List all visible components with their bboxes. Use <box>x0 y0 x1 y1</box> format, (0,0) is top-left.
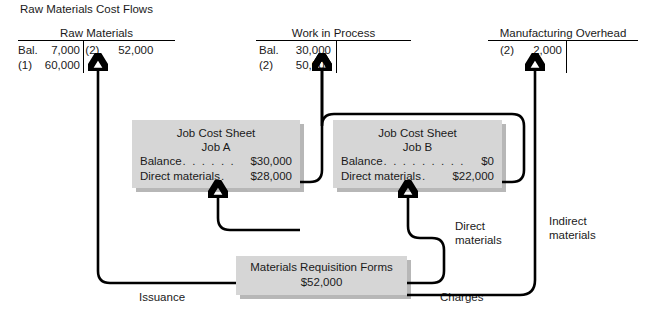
t-account-divider-raw-materials <box>83 41 84 73</box>
t-account-credit-side-work-in-process <box>339 41 409 73</box>
t-account-entry: Bal. 30,000 <box>259 43 339 58</box>
job-b-row-balance: Balance . . . . . . . . . . . . $0 <box>341 154 494 169</box>
arrow-direct-materials-job-b <box>407 195 444 283</box>
entry-amount: 50,000 <box>281 58 331 73</box>
t-account-entry: (2) 50,000 <box>259 58 339 73</box>
t-account-entry: (1) 60,000 <box>18 58 81 73</box>
entry-amount: 2,000 <box>522 43 562 58</box>
direct-materials-line-1: Direct <box>455 219 502 233</box>
arrow-direct-materials-job-a <box>218 195 300 230</box>
materials-requisition-forms-box: Materials Requisition Forms $52,000 <box>236 256 407 295</box>
connector-label-indirect-materials: Indirect materials <box>549 214 596 242</box>
job-a-row-balance: Balance . . . . . . . . $30,000 <box>140 154 292 169</box>
row-leader: . . . . . . . . . . . . <box>383 154 468 169</box>
entry-ref: Bal. <box>18 43 43 58</box>
t-account-debit-side-raw-materials: Bal. 7,000 (1) 60,000 <box>18 41 81 73</box>
t-account-title-work-in-process: Work in Process <box>256 27 411 40</box>
row-leader: . <box>421 169 441 184</box>
row-amount: $0 <box>468 154 494 169</box>
t-account-divider-manufacturing-overhead <box>566 41 567 73</box>
t-account-entry: Bal. 7,000 <box>18 43 81 58</box>
t-account-entry: (2) 2,000 <box>500 43 572 58</box>
entry-amount: 60,000 <box>39 58 80 73</box>
connector-label-issuance: Issuance <box>139 290 185 304</box>
t-account-raw-materials: Raw Materials Bal. 7,000 (1) 60,000 (2) … <box>18 27 175 73</box>
connector-label-direct-materials: Direct materials <box>455 219 502 247</box>
row-amount: $22,000 <box>441 169 494 184</box>
row-label: Balance <box>140 154 182 169</box>
job-b-job-label: Job B <box>341 140 494 154</box>
t-account-credit-side-raw-materials: (2) 52,000 <box>81 41 175 73</box>
row-amount: $30,000 <box>239 154 292 169</box>
entry-ref: Bal. <box>259 43 284 58</box>
entry-amount: 30,000 <box>284 43 331 58</box>
job-cost-sheet-job-a: Job Cost Sheet Job A Balance . . . . . .… <box>132 120 300 188</box>
indirect-materials-line-1: Indirect <box>549 214 596 228</box>
job-b-heading: Job Cost Sheet <box>341 126 494 140</box>
materials-requisition-title: Materials Requisition Forms <box>242 260 401 275</box>
t-account-debit-side-manufacturing-overhead: (2) 2,000 <box>488 41 572 73</box>
entry-ref: (2) <box>85 43 105 58</box>
job-b-row-direct-materials: Direct materials . $22,000 <box>341 169 494 184</box>
job-a-job-label: Job A <box>140 140 292 154</box>
indirect-materials-line-2: materials <box>549 228 596 242</box>
connector-label-charges: Charges <box>440 290 483 304</box>
entry-amount: 52,000 <box>105 43 153 58</box>
job-a-heading: Job Cost Sheet <box>140 126 292 140</box>
t-account-manufacturing-overhead: Manufacturing Overhead (2) 2,000 <box>488 27 638 73</box>
row-label: Direct materials <box>341 169 421 184</box>
entry-ref: (2) <box>500 43 522 58</box>
t-account-debit-side-work-in-process: Bal. 30,000 (2) 50,000 <box>256 41 339 73</box>
row-label: Balance <box>341 154 383 169</box>
t-account-title-raw-materials: Raw Materials <box>18 27 175 40</box>
row-label: Direct materials <box>140 169 220 184</box>
t-account-divider-work-in-process <box>336 41 337 73</box>
materials-requisition-amount: $52,000 <box>242 275 401 290</box>
row-leader: . . . . . . . . <box>182 154 239 169</box>
figure-title: Raw Materials Cost Flows <box>20 3 153 15</box>
t-account-title-manufacturing-overhead: Manufacturing Overhead <box>488 27 638 40</box>
row-amount: $28,000 <box>239 169 292 184</box>
job-a-row-direct-materials: Direct materials . $28,000 <box>140 169 292 184</box>
entry-amount: 7,000 <box>43 43 80 58</box>
job-cost-sheet-job-b: Job Cost Sheet Job B Balance . . . . . .… <box>333 120 502 188</box>
raw-materials-cost-flows-diagram: Raw Materials Cost Flows Raw Materials B… <box>0 0 647 317</box>
t-account-entry: (2) 52,000 <box>85 43 175 58</box>
entry-ref: (2) <box>259 58 281 73</box>
arrow-job-a-to-work-in-process <box>300 68 322 182</box>
direct-materials-line-2: materials <box>455 233 502 247</box>
row-leader: . <box>220 169 239 184</box>
entry-ref: (1) <box>18 58 39 73</box>
t-account-work-in-process: Work in Process Bal. 30,000 (2) 50,000 <box>256 27 411 73</box>
t-account-credit-side-manufacturing-overhead <box>572 41 638 73</box>
